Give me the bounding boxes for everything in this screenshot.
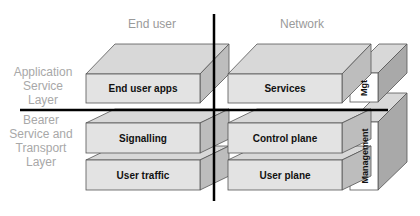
label-mgt-text: Mgt [359,80,369,96]
label-end-user-apps: End user apps [86,74,200,103]
label-services: Services [228,74,342,103]
column-header-network: Network [262,17,342,31]
row-header-application-service-layer: Application Service Layer [0,65,86,107]
row-header-bearer-transport-layer: Bearer Service and Transport Layer [0,113,82,169]
label-user-plane: User plane [228,160,342,190]
row-header-line: Service [0,79,86,93]
row-header-line: Layer [0,93,86,107]
label-mgt: Mgt [350,73,378,102]
row-header-line: Layer [0,155,82,169]
row-header-line: Service and [0,127,82,141]
row-header-line: Application [0,65,86,79]
label-management-text: Management [359,128,369,183]
label-user-traffic: User traffic [86,160,200,190]
label-management: Management [350,122,378,190]
column-header-end-user: End user [112,17,192,31]
row-header-line: Bearer [0,113,82,127]
row-header-line: Transport [0,141,82,155]
label-control-plane: Control plane [228,123,342,153]
label-signalling: Signalling [86,123,200,153]
